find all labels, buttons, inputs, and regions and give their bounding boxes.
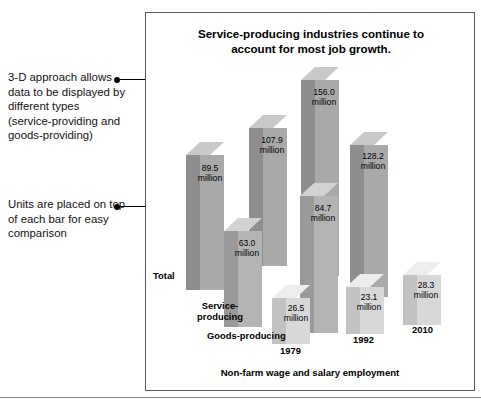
bar-value: 156.0	[313, 87, 335, 97]
bar-top-face	[186, 142, 224, 155]
bar-value: 89.5	[202, 163, 219, 173]
bar-label-total-156: 156.0 million	[303, 88, 345, 107]
chart-plot-area: 89.5 million 107.9 million 156.0 million	[145, 12, 475, 391]
series-label-goods: Goods-producing	[207, 330, 286, 341]
bar-top-face	[350, 132, 388, 145]
series-label-service: Service- producing	[189, 300, 251, 322]
bar-label-goods-2010: 28.3 million	[405, 281, 447, 300]
bar-value: 63.0	[239, 238, 256, 248]
bar-unit: million	[312, 97, 336, 107]
year-label-2010: 2010	[412, 324, 433, 335]
series-label-total: Total	[153, 270, 175, 281]
bar-unit: million	[361, 161, 385, 171]
bar-label-goods-1979: 26.5 million	[275, 304, 317, 323]
bar-label-total-2010: 128.2 million	[352, 152, 394, 171]
bar-top-face	[301, 67, 339, 80]
series-label-service-line-2: producing	[197, 311, 243, 322]
annotation-units-on-top: Units are placed on top of each bar for …	[8, 197, 126, 241]
chart-caption: Non-farm wage and salary employment	[145, 367, 475, 378]
bar-unit: million	[357, 302, 381, 312]
bar-value: 26.5	[288, 303, 305, 313]
bar-value: 84.7	[315, 203, 332, 213]
bar-unit: million	[414, 290, 438, 300]
bar-label-service-1992: 84.7 million	[302, 204, 344, 223]
bar-unit: million	[260, 145, 284, 155]
bar-value: 28.3	[418, 280, 435, 290]
bar-unit: million	[311, 213, 335, 223]
bar-label-total-1992: 107.9 million	[251, 136, 293, 155]
bottom-divider	[0, 397, 481, 398]
figure-page: 3-D approach allows data to be displayed…	[0, 0, 481, 412]
bar-value: 107.9	[261, 135, 283, 145]
bar-unit: million	[284, 313, 308, 323]
bar-value: 128.2	[362, 151, 384, 161]
bar-label-service-1979: 63.0 million	[226, 239, 268, 258]
bar-label-goods-1992: 23.1 million	[348, 293, 390, 312]
bar-value: 23.1	[361, 292, 378, 302]
year-label-1992: 1992	[353, 334, 374, 345]
annotation-3d-approach: 3-D approach allows data to be displayed…	[8, 70, 126, 143]
bar-label-total-1979: 89.5 million	[190, 164, 230, 183]
bar-unit: million	[198, 173, 222, 183]
bar-top-face	[249, 115, 287, 128]
year-label-1979: 1979	[280, 345, 301, 356]
bar-top-face	[403, 262, 441, 275]
series-label-service-line-1: Service-	[202, 300, 238, 311]
bar-unit: million	[235, 248, 259, 258]
